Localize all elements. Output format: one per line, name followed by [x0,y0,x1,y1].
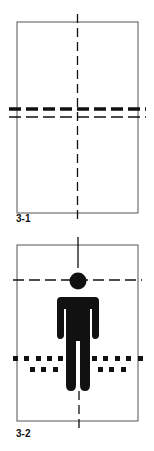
figure-3-2-drawing [0,225,154,451]
figure-3-2: 3-2 [0,225,154,451]
figure-3-1: 3-1 [0,0,154,225]
figure-label: 3-1 [16,213,30,224]
person-icon [57,273,99,392]
dotted-line-lower [30,367,126,372]
dotted-line-upper [13,356,143,361]
figure-3-1-drawing [0,0,154,225]
figure-label: 3-2 [16,428,30,439]
